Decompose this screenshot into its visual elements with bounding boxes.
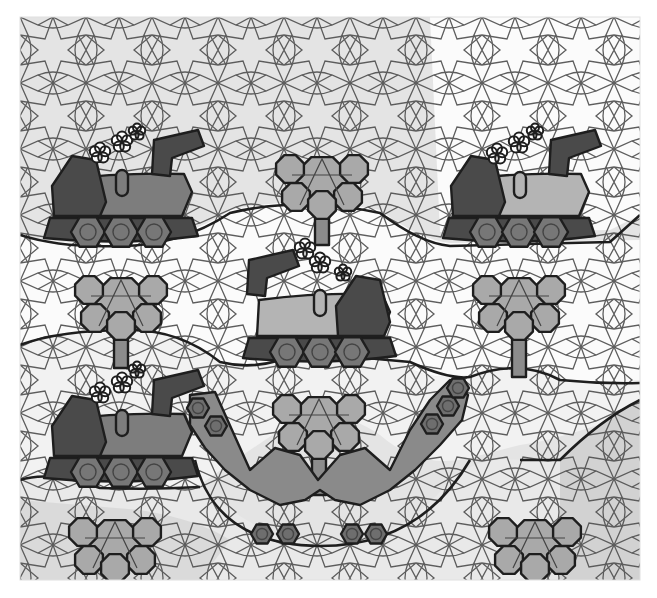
tree-canopy-lobe xyxy=(479,304,507,332)
tree-canopy-lobe xyxy=(139,276,167,304)
tree-canopy-lobe xyxy=(279,423,307,451)
train-chimney xyxy=(314,290,326,316)
train-wheel xyxy=(104,457,138,486)
train-wheel xyxy=(437,397,459,416)
tree-canopy-lobe xyxy=(81,304,109,332)
train-wheel xyxy=(335,337,369,366)
tree-canopy-lobe xyxy=(340,155,368,183)
tree-canopy-lobe xyxy=(553,518,581,546)
tree-canopy-lobe xyxy=(127,546,155,574)
tree-canopy-lobe xyxy=(305,431,333,459)
tree-canopy-lobe xyxy=(308,191,336,219)
tree-canopy-lobe xyxy=(75,276,103,304)
tree-canopy-lobe xyxy=(276,155,304,183)
train-wheel xyxy=(205,417,227,436)
smoke-puff-icon xyxy=(527,124,543,140)
train-wheel xyxy=(277,525,299,544)
train-chimney xyxy=(116,410,128,436)
train-wheel xyxy=(187,399,209,418)
smoke-puff-icon xyxy=(335,265,351,281)
tree-canopy-lobe xyxy=(282,183,310,211)
train-wheel xyxy=(270,337,304,366)
tree-canopy-lobe xyxy=(101,554,129,582)
train-wheel xyxy=(447,379,469,398)
tree-canopy-lobe xyxy=(334,183,362,211)
train-wheel xyxy=(71,217,105,246)
tree-canopy-lobe xyxy=(69,518,97,546)
train-wheel xyxy=(502,217,536,246)
train-wheel xyxy=(365,525,387,544)
tree-canopy-lobe xyxy=(489,518,517,546)
train-chimney xyxy=(116,170,128,196)
tree-bottom-left xyxy=(69,518,161,582)
train-wheel xyxy=(137,217,171,246)
smoke-puff-icon xyxy=(129,362,145,378)
train-wheel xyxy=(421,415,443,434)
train-chimney xyxy=(514,172,526,198)
train-wheel xyxy=(104,217,138,246)
tree-canopy-lobe xyxy=(531,304,559,332)
tree-canopy-lobe xyxy=(133,518,161,546)
tree-canopy-lobe xyxy=(107,312,135,340)
train-wheel xyxy=(303,337,337,366)
train-wheel xyxy=(470,217,504,246)
tree-canopy-lobe xyxy=(521,554,549,582)
tree-canopy-lobe xyxy=(537,276,565,304)
tessellation-artwork xyxy=(0,0,657,598)
tree-bottom-right xyxy=(489,518,581,582)
train-wheel xyxy=(251,525,273,544)
train-wheel xyxy=(534,217,568,246)
tree-canopy-lobe xyxy=(505,312,533,340)
tree-canopy-lobe xyxy=(133,304,161,332)
tree-canopy-lobe xyxy=(337,395,365,423)
tree-canopy-lobe xyxy=(547,546,575,574)
tree-canopy-lobe xyxy=(75,546,103,574)
tree-canopy-lobe xyxy=(273,395,301,423)
train-wheel xyxy=(137,457,171,486)
smoke-puff-icon xyxy=(129,124,145,140)
tree-canopy-lobe xyxy=(331,423,359,451)
tree-canopy-lobe xyxy=(495,546,523,574)
train-wheel xyxy=(341,525,363,544)
train-wheel xyxy=(71,457,105,486)
tree-canopy-lobe xyxy=(473,276,501,304)
